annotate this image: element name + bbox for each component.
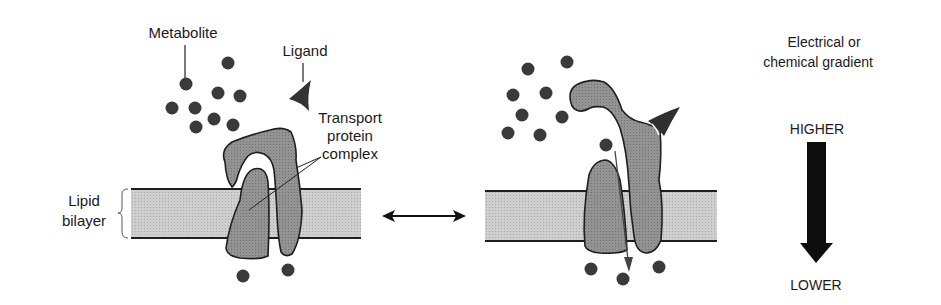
metabolite-dot: [561, 56, 574, 69]
metabolite-dot: [189, 102, 202, 115]
metabolite-label: Metabolite: [148, 24, 217, 42]
bilayer-brace: [118, 189, 128, 238]
metabolites-below-right: [585, 261, 666, 286]
metabolite-dot: [653, 261, 666, 274]
metabolite-dot: [166, 102, 179, 115]
equilibrium-arrow: [382, 210, 466, 222]
metabolite-dot: [556, 111, 569, 124]
metabolite-dot: [190, 121, 203, 134]
lipid-label-line1: Lipid: [68, 192, 100, 210]
metabolite-dot: [227, 119, 240, 132]
metabolite-dot: [282, 264, 295, 277]
diagram: Metabolite Ligand Transport protein comp…: [0, 0, 941, 305]
transport-protein-right: [570, 80, 662, 253]
lower-label: LOWER: [790, 276, 841, 294]
metabolite-dot: [208, 113, 221, 126]
gradient-label-line1: Electrical or: [787, 33, 860, 51]
transport-label-line3: complex: [322, 145, 378, 163]
metabolite-dot: [617, 273, 630, 286]
metabolite-dot: [180, 78, 193, 91]
metabolites-below-left: [237, 264, 295, 283]
metabolite-dot: [234, 90, 247, 103]
left-panel: [118, 45, 361, 283]
ligand-icon: [289, 80, 311, 111]
transport-label-line1: Transport: [318, 109, 382, 127]
metabolite-dot: [534, 129, 547, 142]
metabolite-dot: [516, 109, 529, 122]
metabolite-dot: [222, 57, 235, 70]
transport-label-line2: protein: [327, 127, 373, 145]
metabolite-dot: [502, 127, 515, 140]
metabolite-dot: [212, 87, 225, 100]
metabolite-dot: [237, 270, 250, 283]
metabolite-dot: [600, 139, 613, 152]
right-panel: [485, 56, 717, 286]
lipid-label-line2: bilayer: [62, 212, 106, 230]
metabolite-dot: [585, 263, 598, 276]
ligand-label: Ligand: [282, 42, 327, 60]
metabolite-dot: [540, 87, 553, 100]
higher-label: HIGHER: [790, 120, 844, 138]
metabolite-dot: [522, 63, 535, 76]
metabolites-above-left: [166, 57, 247, 134]
gradient-arrow: [800, 142, 833, 263]
gradient-label-line2: chemical gradient: [763, 53, 873, 71]
metabolite-dot: [507, 89, 520, 102]
